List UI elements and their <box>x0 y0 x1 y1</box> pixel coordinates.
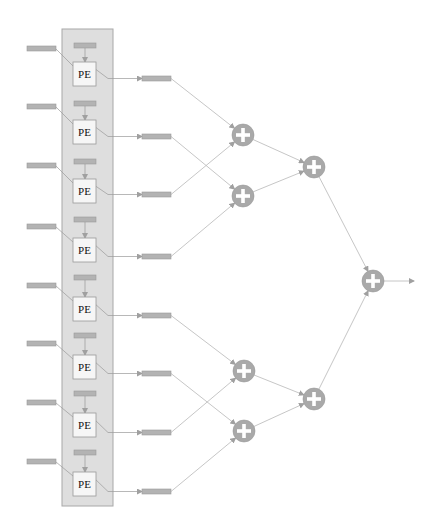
adder-node <box>232 124 254 146</box>
weight-register-bar <box>74 43 96 48</box>
input-register-bar <box>27 459 56 464</box>
input-register-bar <box>27 224 56 229</box>
pe-label: PE <box>78 478 91 490</box>
adder-node <box>233 360 255 382</box>
input-register-bar <box>27 104 56 109</box>
pe-label: PE <box>78 126 91 138</box>
pe-label: PE <box>78 244 91 256</box>
output-register-bar <box>142 76 171 81</box>
weight-register-bar <box>74 333 96 338</box>
input-register-bar <box>27 283 56 288</box>
input-register-bar <box>27 46 56 51</box>
output-register-bar <box>142 430 171 435</box>
weight-register-bar <box>74 217 96 222</box>
adder-node <box>232 185 254 207</box>
adder-input-line <box>171 378 236 432</box>
adder-input-line <box>253 171 304 192</box>
output-register-bar <box>142 254 171 259</box>
adder-input-line <box>253 140 304 163</box>
adder-input-line <box>171 142 235 194</box>
input-register-bar <box>27 341 56 346</box>
adder-input-line <box>319 291 368 389</box>
pe-label: PE <box>78 185 91 197</box>
adder-input-line <box>319 177 368 271</box>
adder-node <box>303 156 325 178</box>
pe-label: PE <box>78 419 91 431</box>
adder-node <box>233 420 255 442</box>
weight-register-bar <box>74 450 96 455</box>
input-register-bar <box>27 400 56 405</box>
adder-input-line <box>171 79 234 129</box>
adder-tree <box>232 124 384 442</box>
pe-label: PE <box>78 68 91 80</box>
input-register-bar <box>27 163 56 168</box>
adder-node <box>303 388 325 410</box>
output-register-bar <box>142 134 171 139</box>
output-register-bar <box>142 313 171 318</box>
adder-node <box>362 270 384 292</box>
weight-register-bar <box>74 159 96 164</box>
adder-input-line <box>254 404 304 427</box>
adder-input-line <box>254 375 304 395</box>
adder-input-line <box>171 374 235 425</box>
weight-register-bar <box>74 101 96 106</box>
weight-register-bar <box>74 391 96 396</box>
pe-label: PE <box>78 303 91 315</box>
adder-input-line <box>171 316 235 365</box>
pe-label: PE <box>78 361 91 373</box>
weight-register-bar <box>74 275 96 280</box>
output-register-bar <box>142 371 171 376</box>
adder-input-line <box>171 203 235 256</box>
output-register-bar <box>142 489 171 494</box>
adder-input-line <box>171 137 235 189</box>
pe-adder-tree-diagram: PEPEPEPEPEPEPEPE <box>0 0 446 527</box>
output-register-bar <box>142 192 171 197</box>
adder-input-line <box>171 438 236 491</box>
